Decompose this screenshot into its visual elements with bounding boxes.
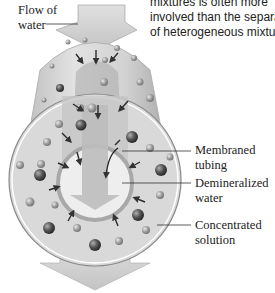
label-demineralized-line-2: water <box>195 191 269 206</box>
label-flow-of-water: Flow of water <box>18 3 57 33</box>
label-concentrated-line-1: Concentrated <box>195 218 262 233</box>
label-flow-line-2: water <box>18 18 57 33</box>
demineralization-diagram: mixtures is often more involved than the… <box>0 0 275 293</box>
label-concentrated-solution: Concentrated solution <box>195 218 262 248</box>
label-demineralized-line-1: Demineralized <box>195 176 269 191</box>
label-membraned-tubing: Membraned tubing <box>195 143 255 173</box>
label-membraned-line-2: tubing <box>195 158 255 173</box>
label-membraned-line-1: Membraned <box>195 143 255 158</box>
label-demineralized-water: Demineralized water <box>195 176 269 206</box>
label-flow-line-1: Flow of <box>18 3 57 18</box>
label-concentrated-line-2: solution <box>195 233 262 248</box>
